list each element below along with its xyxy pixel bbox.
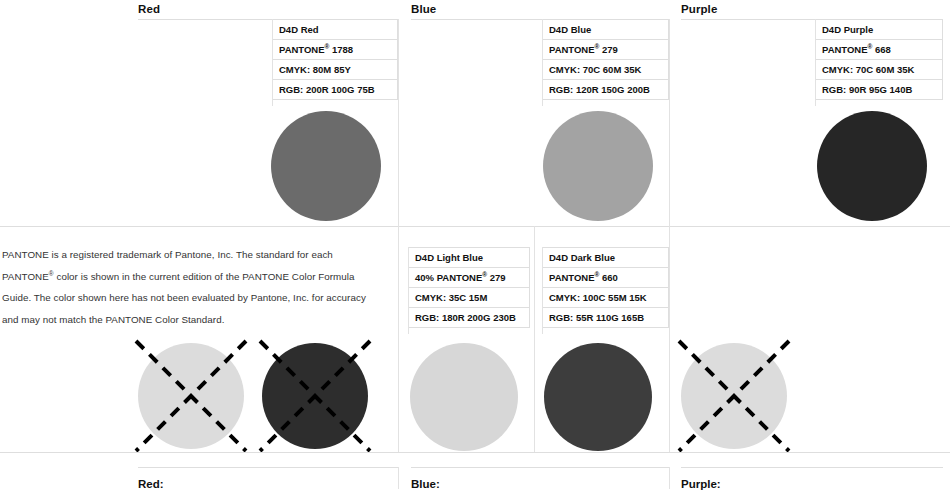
table-row: PANTONE® 660 — [542, 268, 669, 288]
table-row: D4D Light Blue — [408, 248, 530, 268]
pantone-light-blue: 40% PANTONE® 279 — [408, 268, 530, 288]
cmyk-red: CMYK: 80M 85Y — [272, 60, 398, 80]
pantone-number: 668 — [875, 44, 891, 55]
bottom-rule-purple — [681, 467, 943, 468]
cmyk-light-blue: CMYK: 35C 15M — [408, 288, 530, 308]
bottom-rule-red — [138, 467, 398, 468]
pantone-blue: PANTONE® 279 — [542, 40, 669, 60]
registered-mark-icon: ® — [49, 269, 54, 276]
swatch-name-light-blue: D4D Light Blue — [408, 248, 530, 268]
table-row: PANTONE® 668 — [815, 40, 943, 60]
rgb-purple: RGB: 90R 95G 140B — [815, 80, 943, 100]
table-row: RGB: 120R 150G 200B — [542, 80, 669, 100]
spec-table-light-blue: D4D Light Blue 40% PANTONE® 279 CMYK: 35… — [408, 247, 530, 328]
cmyk-purple: CMYK: 70C 60M 35K — [815, 60, 943, 80]
rgb-light-blue: RGB: 180R 200G 230B — [408, 308, 530, 328]
registered-mark-icon: ® — [325, 43, 330, 50]
spec-table-dark-blue: D4D Dark Blue PANTONE® 660 CMYK: 100C 55… — [542, 247, 669, 328]
pantone-prefix: PANTONE — [549, 44, 595, 55]
table-row: RGB: 90R 95G 140B — [815, 80, 943, 100]
bottom-section-divider-rule — [0, 452, 950, 453]
pantone-purple: PANTONE® 668 — [815, 40, 943, 60]
pantone-legal-notice: PANTONE is a registered trademark of Pan… — [2, 244, 374, 330]
pantone-prefix: PANTONE — [549, 272, 595, 283]
rgb-dark-blue: RGB: 55R 110G 165B — [542, 308, 669, 328]
registered-mark-icon: ® — [595, 43, 600, 50]
pantone-dark-blue: PANTONE® 660 — [542, 268, 669, 288]
registered-mark-icon: ® — [482, 271, 487, 278]
cmyk-dark-blue: CMYK: 100C 55M 15K — [542, 288, 669, 308]
cell-left-border-purple — [815, 19, 816, 106]
table-row: CMYK: 70C 60M 35K — [815, 60, 943, 80]
table-row: D4D Purple — [815, 20, 943, 40]
legal-line-4: the PANTONE Color Standard. — [89, 314, 224, 325]
swatch-circle-purple — [817, 111, 927, 221]
swatch-circle-crossed-light — [138, 343, 244, 449]
table-row: CMYK: 35C 15M — [408, 288, 530, 308]
table-row: RGB: 200R 100G 75B — [272, 80, 398, 100]
column-divider-5 — [669, 226, 670, 452]
bottom-label-purple: Purple: — [681, 478, 721, 490]
swatch-name-blue: D4D Blue — [542, 20, 669, 40]
bottom-label-red: Red: — [138, 478, 164, 490]
rgb-red: RGB: 200R 100G 75B — [272, 80, 398, 100]
pantone-number: 279 — [602, 44, 618, 55]
table-row: CMYK: 80M 85Y — [272, 60, 398, 80]
swatch-circle-red — [271, 111, 381, 221]
swatch-circle-dark-blue — [544, 343, 652, 451]
table-row: PANTONE® 279 — [542, 40, 669, 60]
section-header-purple: Purple — [681, 2, 717, 16]
spec-table-purple: D4D Purple PANTONE® 668 CMYK: 70C 60M 35… — [815, 19, 943, 100]
spec-table-red: D4D Red PANTONE® 1788 CMYK: 80M 85Y RGB:… — [272, 19, 398, 100]
registered-mark-icon: ® — [868, 43, 873, 50]
rgb-blue: RGB: 120R 150G 200B — [542, 80, 669, 100]
swatch-name-dark-blue: D4D Dark Blue — [542, 248, 669, 268]
section-divider-rule — [0, 226, 950, 227]
swatch-circle-crossed-dark — [262, 343, 368, 449]
table-row: CMYK: 70C 60M 35K — [542, 60, 669, 80]
swatch-name-red: D4D Red — [272, 20, 398, 40]
section-header-blue: Blue — [411, 2, 436, 16]
column-divider-7 — [669, 467, 670, 489]
table-row: D4D Blue — [542, 20, 669, 40]
table-row: RGB: 180R 200G 230B — [408, 308, 530, 328]
cell-left-border-dark-blue — [542, 247, 543, 334]
cmyk-blue: CMYK: 70C 60M 35K — [542, 60, 669, 80]
section-header-red: Red — [138, 2, 160, 16]
column-divider-3 — [398, 226, 399, 452]
pantone-prefix: PANTONE — [279, 44, 325, 55]
column-divider-1 — [398, 19, 399, 226]
swatch-circle-blue — [543, 111, 653, 221]
cell-left-border-light-blue — [408, 247, 409, 334]
swatch-circle-crossed-light-right — [681, 343, 787, 449]
pantone-number: 660 — [602, 272, 618, 283]
cell-left-border-blue — [542, 19, 543, 106]
column-divider-2 — [669, 19, 670, 226]
column-divider-4 — [534, 226, 535, 452]
swatch-circle-light-blue — [410, 343, 518, 451]
pantone-number: 1788 — [332, 44, 353, 55]
table-row: 40% PANTONE® 279 — [408, 268, 530, 288]
spec-table-blue: D4D Blue PANTONE® 279 CMYK: 70C 60M 35K … — [542, 19, 669, 100]
bottom-label-blue: Blue: — [411, 478, 440, 490]
table-row: D4D Dark Blue — [542, 248, 669, 268]
registered-mark-icon: ® — [595, 271, 600, 278]
table-row: RGB: 55R 110G 165B — [542, 308, 669, 328]
pantone-number: 279 — [490, 272, 506, 283]
pantone-prefix: PANTONE — [822, 44, 868, 55]
column-divider-6 — [398, 467, 399, 489]
table-row: CMYK: 100C 55M 15K — [542, 288, 669, 308]
pantone-prefix: 40% PANTONE — [415, 272, 482, 283]
table-row: D4D Red — [272, 20, 398, 40]
bottom-rule-blue — [411, 467, 669, 468]
cell-left-border-red — [272, 19, 273, 106]
swatch-name-purple: D4D Purple — [815, 20, 943, 40]
pantone-red: PANTONE® 1788 — [272, 40, 398, 60]
table-row: PANTONE® 1788 — [272, 40, 398, 60]
